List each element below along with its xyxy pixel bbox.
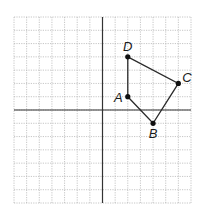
label-d: D (123, 39, 132, 54)
point-b (150, 121, 155, 126)
point-c (176, 81, 181, 86)
label-a: A (113, 90, 123, 105)
label-c: C (182, 70, 192, 85)
point-d (125, 54, 130, 59)
label-b: B (149, 126, 158, 141)
point-a (125, 94, 130, 99)
axes (14, 17, 191, 203)
coordinate-plane: A B C D (0, 0, 200, 223)
